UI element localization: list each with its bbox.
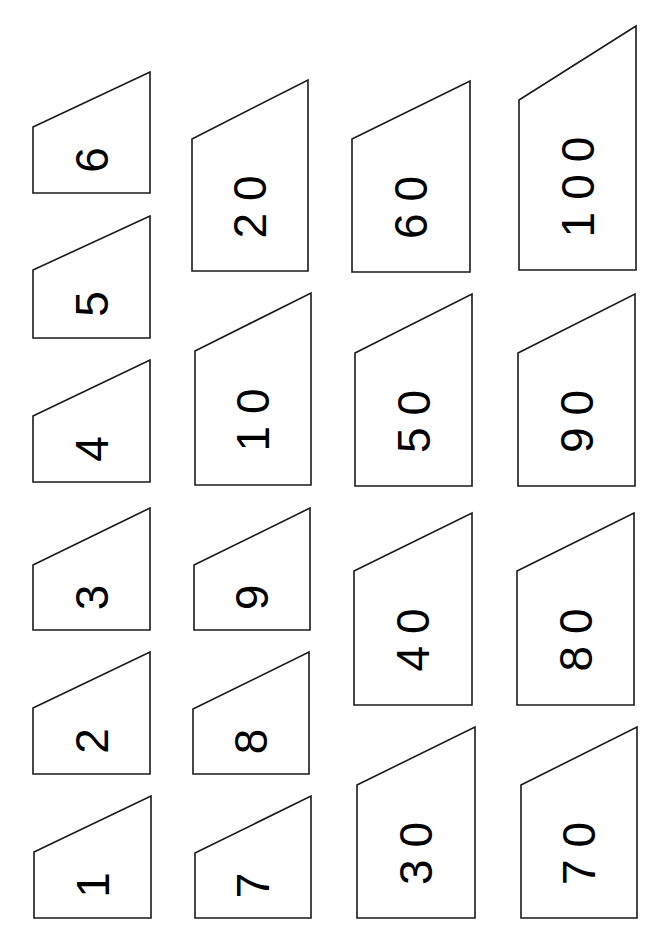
card-number-label: 9 [226, 585, 278, 611]
card-number-label: 10 [227, 376, 279, 451]
card-number-label: 8 [225, 729, 277, 755]
card-number-label: 100 [552, 125, 604, 238]
card-number-label: 1 [67, 872, 119, 898]
card-number-label: 80 [550, 596, 602, 671]
card-number-label: 2 [66, 728, 118, 754]
card-number-label: 4 [66, 436, 118, 462]
card-number-label: 3 [66, 585, 118, 611]
card-number-label: 5 [66, 291, 118, 317]
card-number-label: 30 [390, 810, 442, 885]
card-number-label: 70 [553, 810, 605, 885]
card-number-label: 7 [227, 873, 279, 899]
number-card-sheet: 654321201098760504030100908070 [0, 0, 666, 946]
card-number-label: 6 [66, 147, 118, 173]
card-number-label: 20 [224, 163, 276, 238]
card-number-label: 40 [387, 596, 439, 671]
card-number-label: 60 [385, 164, 437, 239]
card-number-label: 50 [388, 378, 440, 453]
card-number-label: 90 [551, 378, 603, 453]
